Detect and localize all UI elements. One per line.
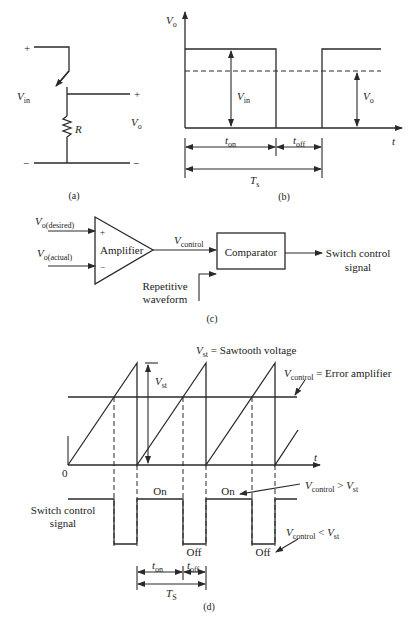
panel-d-pwm-timing: Vst = Sawtooth voltage Vcontrol = Error … <box>31 344 392 613</box>
resistor-icon <box>63 116 71 163</box>
switch-arrow-icon <box>56 71 69 86</box>
vcontrol-definition: Vcontrol = Error amplifier <box>284 367 392 382</box>
origin-label: 0 <box>62 467 68 479</box>
vdesired-label: Vo(desired) <box>35 215 75 230</box>
vo-label: Vo <box>131 116 142 131</box>
switch-signal-label-line1: Switch control <box>31 504 95 516</box>
y-axis-label: Vo <box>166 14 177 29</box>
off-pointer-arrow <box>276 539 298 552</box>
off-label-1: Off <box>186 546 201 558</box>
plus-input-label: + <box>100 227 105 237</box>
on-label-1: On <box>153 485 167 497</box>
output-label-line1: Switch control <box>326 247 390 259</box>
minus-left-label: − <box>23 157 29 169</box>
x-axis-label: t <box>392 135 396 147</box>
minus-right-label: − <box>133 157 139 169</box>
caption-b: (b) <box>278 191 290 203</box>
repetitive-label-line1: Repetitive <box>142 280 187 292</box>
ts-label: Ts <box>250 174 259 189</box>
panel-c-block-diagram: Vo(desired) Vo(actual) + − Amplifier Vco… <box>35 215 390 325</box>
plus-top-label: + <box>24 42 30 54</box>
repetitive-arrow <box>199 274 216 301</box>
switch-control-waveform <box>68 499 297 544</box>
panel-b-waveform: Vo t Vin Vo ton toff Ts (b) <box>166 12 402 203</box>
repetitive-label-line2: waveform <box>143 293 188 305</box>
switch-wire <box>34 47 69 84</box>
minus-input-label: − <box>100 262 105 272</box>
panel-a-circuit: + Vin + R Vo − − (a) <box>17 42 142 202</box>
on-label-2: On <box>221 485 235 497</box>
off-label-2: Off <box>255 546 270 558</box>
vst-label: Vst <box>155 375 168 390</box>
vin-dim-label: Vin <box>237 90 250 105</box>
vo-dim-label: Vo <box>363 90 374 105</box>
vcontrol-label: Vcontrol <box>174 234 204 249</box>
caption-d: (d) <box>203 601 215 613</box>
switch-signal-label-line2: signal <box>50 517 76 529</box>
plus-out-label: + <box>134 88 140 100</box>
ts-label: TS <box>166 587 177 602</box>
vcontrol-lt-vst-label: Vcontrol < Vst <box>286 526 340 541</box>
vin-label: Vin <box>17 90 30 105</box>
pulse-waveform <box>185 49 381 128</box>
r-label: R <box>74 123 82 135</box>
on-pointer-arrow <box>240 484 300 494</box>
pwm-figure: + Vin + R Vo − − (a) Vo t Vin Vo ton tof… <box>0 0 414 626</box>
time-axis-label: t <box>314 451 318 463</box>
output-label-line2: signal <box>345 261 371 273</box>
amplifier-label: Amplifier <box>100 244 144 256</box>
vactual-label: Vo(actual) <box>37 247 72 262</box>
caption-c: (c) <box>206 313 217 325</box>
caption-a: (a) <box>68 190 79 202</box>
vcontrol-gt-vst-label: Vcontrol > Vst <box>305 479 359 494</box>
comparator-label: Comparator <box>225 246 278 258</box>
vst-definition: Vst = Sawtooth voltage <box>196 344 297 359</box>
vcontrol-pointer-arrow <box>295 380 305 395</box>
